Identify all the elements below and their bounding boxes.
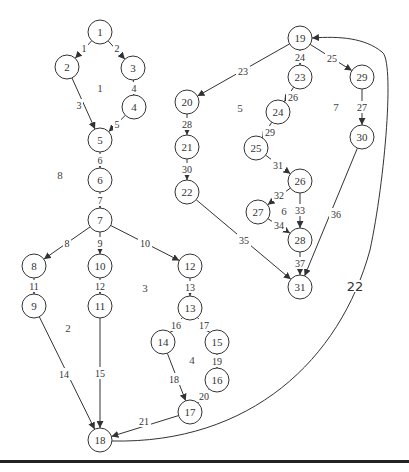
edge-label-text: 36 [331, 209, 341, 220]
edge-label-text: 18 [169, 374, 179, 385]
node-16: 16 [205, 368, 229, 392]
node-29: 29 [350, 65, 374, 89]
edge-label-7: 7 [96, 194, 104, 206]
edge-label-text: 4 [132, 83, 137, 94]
node-3: 3 [121, 56, 145, 80]
edge-label-text: 25 [327, 53, 337, 64]
edge-label-text: 17 [199, 320, 209, 331]
node-7: 7 [88, 208, 112, 232]
edge-label-30: 30 [180, 163, 194, 175]
node-label: 6 [97, 174, 103, 186]
edge-label-text: 14 [59, 369, 69, 380]
edge-label-16: 16 [169, 319, 183, 331]
edge-label-11: 11 [27, 280, 41, 292]
node-label: 15 [212, 336, 224, 348]
edge-label-text: 23 [238, 66, 248, 77]
edge-label-text: 27 [357, 102, 367, 113]
node-20: 20 [175, 90, 199, 114]
node-21: 21 [175, 135, 199, 159]
node-label: 30 [357, 131, 369, 143]
edge-label-18: 18 [167, 373, 181, 385]
edge-label-text: 21 [139, 416, 149, 427]
edge-label-text: 37 [295, 258, 305, 269]
edge-label-text: 32 [274, 190, 284, 201]
node-label: 16 [212, 374, 224, 386]
node-label: 3 [130, 62, 136, 74]
edge-label-20: 20 [197, 390, 211, 402]
node-18: 18 [88, 428, 112, 452]
edge-label-15: 15 [93, 367, 107, 379]
edge-label-5: 5 [113, 118, 121, 130]
edge-label-9: 9 [96, 237, 104, 249]
edge-label-text: 26 [288, 92, 298, 103]
node-5: 5 [88, 128, 112, 152]
edge-label-2: 2 [113, 42, 121, 54]
edge-label-34: 34 [272, 219, 286, 231]
edge-label-13: 13 [183, 281, 197, 293]
region-label-1: 1 [97, 82, 103, 94]
node-22: 22 [175, 180, 199, 204]
edge-label-8: 8 [63, 237, 71, 249]
edge-label-text: 10 [140, 238, 150, 249]
edge-label-text: 15 [95, 368, 105, 379]
edge-label-text: 28 [182, 119, 192, 130]
node-label: 31 [295, 281, 306, 293]
edge-label-24: 24 [293, 51, 307, 63]
control-flow-graph: 1234567891011121314151617181920212223242… [0, 0, 409, 460]
edge-label-14: 14 [57, 368, 71, 380]
edge-label-text: 3 [77, 100, 82, 111]
node-label: 5 [97, 134, 103, 146]
edge-label-33: 33 [293, 204, 307, 216]
node-label: 20 [182, 96, 194, 108]
edge-label-22: 22 [347, 279, 364, 294]
edge-label-text: 13 [185, 282, 195, 293]
edge-label-28: 28 [180, 118, 194, 130]
node-label: 29 [357, 71, 369, 83]
node-label: 9 [31, 300, 37, 312]
node-4: 4 [122, 95, 146, 119]
region-label-8: 8 [57, 169, 63, 181]
edge-label-25: 25 [325, 52, 339, 64]
node-11: 11 [88, 294, 112, 318]
node-label: 12 [185, 260, 196, 272]
node-8: 8 [22, 254, 46, 278]
edge-label-text: 16 [171, 320, 181, 331]
node-19: 19 [288, 26, 312, 50]
node-label: 2 [64, 61, 70, 73]
bottom-divider [0, 460, 409, 463]
edge-label-text: 19 [212, 356, 222, 367]
edge-label-text: 35 [239, 235, 249, 246]
node-30: 30 [350, 125, 374, 149]
node-12: 12 [178, 254, 202, 278]
edge-label-31: 31 [271, 159, 285, 171]
edge-label-27: 27 [355, 101, 369, 113]
node-label: 14 [158, 336, 170, 348]
node-27: 27 [246, 200, 270, 224]
node-13: 13 [178, 296, 202, 320]
edge-label-text: 1 [82, 43, 87, 54]
node-label: 24 [273, 106, 285, 118]
node-10: 10 [88, 254, 112, 278]
edge-label-text: 24 [295, 52, 305, 63]
node-label: 23 [295, 71, 307, 83]
node-label: 11 [95, 300, 106, 312]
edge-label-text: 29 [265, 127, 275, 138]
edge-label-36: 36 [329, 208, 343, 220]
edge-label-text: 9 [98, 238, 103, 249]
node-label: 17 [185, 406, 197, 418]
node-label: 26 [295, 175, 307, 187]
edge-label-6: 6 [96, 154, 104, 166]
edge-label-23: 23 [236, 65, 250, 77]
region-label-7: 7 [333, 101, 339, 113]
node-14: 14 [151, 330, 175, 354]
node-label: 27 [253, 206, 265, 218]
cutoff-text-strip [0, 465, 409, 472]
region-label-6: 6 [281, 205, 287, 217]
edge-label-text: 33 [295, 205, 305, 216]
node-23: 23 [288, 65, 312, 89]
edge-label-text: 2 [115, 43, 120, 54]
edge-label-1: 1 [80, 42, 88, 54]
edge-label-4: 4 [130, 82, 138, 94]
node-2: 2 [55, 55, 79, 79]
region-label-3: 3 [142, 282, 148, 294]
